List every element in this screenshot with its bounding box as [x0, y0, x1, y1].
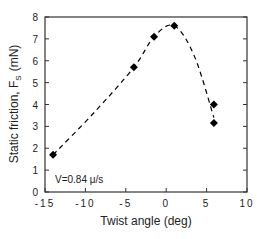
y-tick-label: 0 — [32, 187, 38, 198]
x-axis-title: Twist angle (deg) — [100, 214, 191, 228]
y-tick-label: 6 — [32, 56, 38, 67]
diamond-marker — [130, 63, 138, 71]
y-tick-label: 8 — [32, 12, 38, 23]
chart: -15-10-50510 012345678 V=0.84 μ/s Twist … — [0, 0, 267, 239]
diamond-marker — [210, 119, 218, 127]
diamond-marker — [150, 33, 158, 41]
x-tick-label: 10 — [239, 198, 254, 209]
x-tick-label: -10 — [75, 198, 95, 209]
y-tick-label: 5 — [32, 78, 38, 89]
y-axis-title-subscript: S — [14, 75, 23, 80]
x-tick-labels: -15-10-50510 — [35, 198, 255, 209]
y-tick-label: 7 — [32, 34, 38, 45]
y-tick-label: 2 — [32, 143, 38, 154]
data-points — [49, 22, 218, 159]
dashed-fit-line — [53, 25, 214, 155]
y-axis-title-unit: (mN) — [7, 45, 21, 72]
x-tick-label: 5 — [203, 198, 211, 209]
y-axis-title: Static friction, FS(mN) — [7, 45, 23, 164]
y-axis-title-main: Static friction, F — [7, 81, 21, 164]
fit-curve — [53, 25, 214, 155]
x-tick-label: -15 — [35, 198, 55, 209]
y-tick-labels: 012345678 — [32, 12, 38, 198]
y-tick-label: 3 — [32, 121, 38, 132]
y-tick-label: 4 — [32, 100, 38, 111]
diamond-marker — [170, 22, 178, 30]
x-tick-label: 0 — [162, 198, 170, 209]
velocity-annotation: V=0.84 μ/s — [55, 174, 103, 185]
x-tick-label: -5 — [119, 198, 132, 209]
y-tick-label: 1 — [32, 165, 38, 176]
